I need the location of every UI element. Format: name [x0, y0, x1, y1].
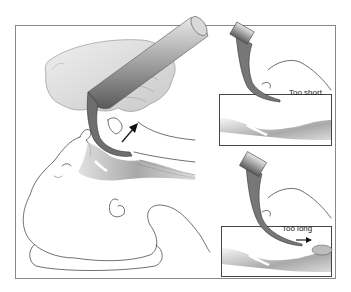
inset-label-too-short: Too short — [289, 88, 323, 97]
inset-label-too-long: Too long — [282, 224, 312, 233]
intubation-illustration: Too short Too long — [0, 0, 351, 292]
